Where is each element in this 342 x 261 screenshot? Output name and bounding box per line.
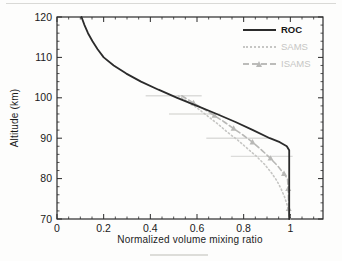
legend-item-roc: ROC bbox=[243, 21, 311, 38]
legend-label: SAMS bbox=[281, 42, 308, 52]
svg-text:80: 80 bbox=[40, 172, 52, 184]
svg-text:0.2: 0.2 bbox=[96, 222, 111, 234]
svg-text:70: 70 bbox=[40, 213, 52, 225]
triangle-marker-icon bbox=[256, 61, 262, 67]
svg-text:0.4: 0.4 bbox=[143, 222, 158, 234]
legend: ROC SAMS ISAMS bbox=[243, 21, 311, 72]
svg-text:90: 90 bbox=[40, 132, 52, 144]
legend-label: ROC bbox=[281, 25, 302, 35]
svg-text:110: 110 bbox=[35, 51, 52, 63]
dotted-line-icon bbox=[243, 46, 276, 48]
figure: 00.20.40.60.81708090100110120 Altitude (… bbox=[0, 0, 342, 261]
x-axis-label: Normalized volume mixing ratio bbox=[117, 234, 263, 245]
svg-text:100: 100 bbox=[34, 91, 52, 103]
svg-text:120: 120 bbox=[34, 11, 52, 23]
caption-artifact bbox=[150, 254, 208, 256]
svg-text:0: 0 bbox=[54, 222, 60, 234]
svg-text:1: 1 bbox=[287, 222, 293, 234]
legend-item-sams: SAMS bbox=[243, 38, 311, 55]
dashed-line-icon bbox=[243, 63, 276, 65]
legend-item-isams: ISAMS bbox=[243, 55, 311, 72]
legend-label: ISAMS bbox=[281, 59, 311, 69]
y-axis-label: Altitude (km) bbox=[9, 89, 20, 148]
svg-text:0.6: 0.6 bbox=[190, 222, 205, 234]
svg-text:0.8: 0.8 bbox=[236, 222, 251, 234]
solid-line-icon bbox=[243, 29, 276, 31]
